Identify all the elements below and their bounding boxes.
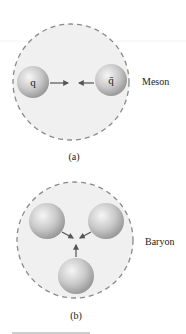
quark-sphere	[29, 203, 65, 239]
caption-a: (a)	[68, 151, 79, 163]
baryon-panel: Baryon (b)	[17, 182, 174, 322]
antiquark-label: q̄	[108, 74, 114, 86]
meson-panel: q q̄ Meson (a)	[13, 24, 169, 163]
quark-sphere	[88, 203, 124, 239]
caption-b: (b)	[70, 310, 82, 322]
meson-baryon-diagram: q q̄ Meson (a) Baryon (b)	[0, 0, 186, 334]
meson-label: Meson	[142, 76, 169, 87]
quark-label: q	[30, 76, 36, 88]
baryon-label: Baryon	[145, 236, 174, 247]
quark-sphere	[58, 258, 94, 294]
